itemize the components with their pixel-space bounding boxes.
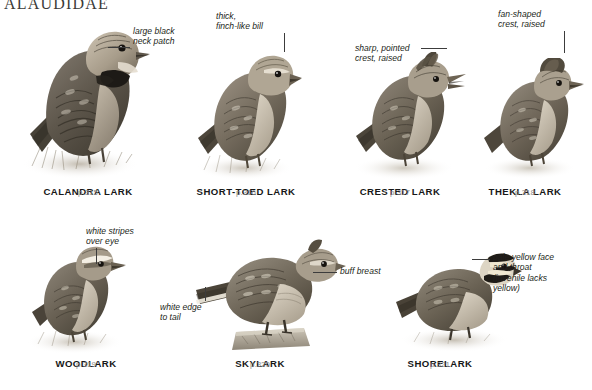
- annotation-thick-finch-like-bill: thick, finch-like bill: [216, 11, 263, 32]
- bird-illustration-calandra-lark: [18, 14, 150, 180]
- annotation-fan-shaped-crest: fan-shaped crest, raised: [498, 9, 545, 30]
- species-caption-thekla-lark: THEKLA LARK p.318: [462, 186, 588, 197]
- leader-line-fan-crest: [564, 31, 565, 53]
- page-reference-calandra-lark: p.315: [8, 188, 168, 197]
- species-caption-calandra-lark: CALANDRA LARK p.315: [8, 186, 168, 197]
- leader-line-pointed-crest: [421, 48, 447, 49]
- bird-illustration-thekla-lark: [482, 58, 586, 182]
- page-reference-short-toed-lark: p.316: [172, 188, 320, 197]
- species-caption-short-toed-lark: SHORT-TOED LARK p.316: [172, 186, 320, 197]
- page-reference-woodlark: p.319: [8, 360, 164, 369]
- leader-line-white-edge-tail: [205, 287, 206, 301]
- bird-illustration-woodlark: [22, 238, 134, 356]
- annotation-white-edge-to-tail: white edge to tail: [160, 302, 202, 323]
- annotation-pale-yellow-face-and-throat: pale yellow face and throat (juvenile la…: [493, 252, 554, 294]
- species-caption-skylark: SKYLARK p.320: [186, 358, 334, 369]
- page-reference-shorelark: p.321: [350, 360, 530, 369]
- page-reference-thekla-lark: p.318: [462, 188, 588, 197]
- species-caption-crested-lark: CRESTED LARK p.317: [330, 186, 470, 197]
- annotation-white-stripes-over-eye: white stripes over eye: [86, 226, 134, 247]
- bird-illustration-crested-lark: [352, 52, 466, 182]
- annotation-buff-breast: buff breast: [340, 266, 381, 276]
- leader-line-white-stripes: [96, 248, 97, 264]
- page-reference-skylark: p.320: [186, 360, 334, 369]
- species-caption-woodlark: WOODLARK p.319: [8, 358, 164, 369]
- annotation-sharp-pointed-crest: sharp, pointed crest, raised: [355, 43, 409, 64]
- species-caption-shorelark: SHORELARK p.321: [350, 358, 530, 369]
- page-reference-crested-lark: p.317: [330, 188, 470, 197]
- leader-line-buff-breast: [313, 272, 337, 273]
- bird-illustration-short-toed-lark: [190, 42, 302, 182]
- annotation-large-black-neck-patch: large black neck patch: [133, 26, 175, 47]
- bird-illustration-skylark: [196, 236, 346, 356]
- leader-line-finch-bill: [284, 33, 285, 52]
- leader-line-yellow-face: [472, 259, 490, 260]
- leader-line-neck-patch: [108, 47, 130, 48]
- family-header: ALAUDIDAE: [4, 0, 109, 13]
- field-guide-plate: ALAUDIDAE: [0, 0, 592, 390]
